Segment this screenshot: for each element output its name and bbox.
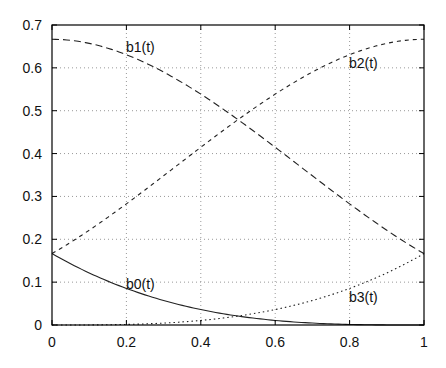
y-tick-label: 0.5 bbox=[23, 103, 43, 119]
x-tick-labels: 0 0.2 0.4 0.6 0.8 1 bbox=[48, 334, 428, 350]
y-tick-labels: 0 0.1 0.2 0.3 0.4 0.5 0.6 0.7 bbox=[23, 17, 43, 333]
y-tick-label: 0.4 bbox=[23, 146, 43, 162]
x-tick-label: 0 bbox=[48, 334, 56, 350]
label-b1: b1(t) bbox=[126, 39, 155, 55]
x-tick-label: 1 bbox=[420, 334, 428, 350]
y-tick-label: 0.2 bbox=[23, 231, 43, 247]
curve-b2 bbox=[52, 39, 424, 253]
curve-b1 bbox=[52, 39, 424, 253]
bspline-basis-chart: 0 0.2 0.4 0.6 0.8 1 0 0.1 0.2 0.3 0.4 0.… bbox=[0, 0, 446, 368]
x-tick-label: 0.2 bbox=[117, 334, 137, 350]
x-tick-label: 0.8 bbox=[340, 334, 360, 350]
x-tick-label: 0.6 bbox=[265, 334, 285, 350]
y-tick-label: 0 bbox=[34, 317, 42, 333]
curve-labels: b1(t) b2(t) b0(t) b3(t) bbox=[126, 39, 378, 305]
y-tick-label: 0.7 bbox=[23, 17, 43, 33]
label-b2: b2(t) bbox=[349, 55, 378, 71]
y-tick-label: 0.3 bbox=[23, 188, 43, 204]
x-tick-label: 0.4 bbox=[191, 334, 211, 350]
y-tick-label: 0.6 bbox=[23, 60, 43, 76]
label-b0: b0(t) bbox=[126, 276, 155, 292]
label-b3: b3(t) bbox=[349, 289, 378, 305]
y-tick-label: 0.1 bbox=[23, 274, 43, 290]
